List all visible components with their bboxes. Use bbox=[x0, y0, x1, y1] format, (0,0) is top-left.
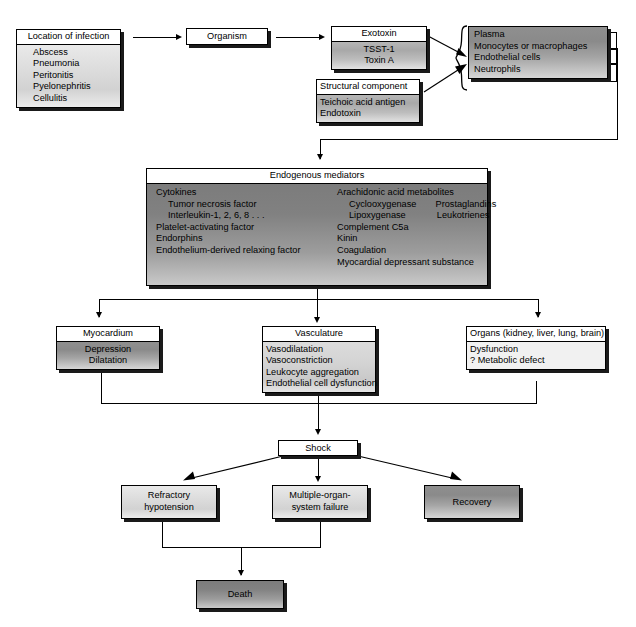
node-organs: Organs (kidney, liver, lung, brain) Dysf… bbox=[466, 326, 606, 370]
node-organism-label: Organism bbox=[207, 31, 247, 42]
connector-location-to-organism bbox=[133, 37, 178, 38]
node-mosf-line2: system failure bbox=[273, 502, 367, 514]
bracket-stub-bottom bbox=[607, 63, 617, 82]
list-item: Endotoxin bbox=[320, 108, 415, 120]
node-structural-header: Structural component bbox=[317, 80, 419, 95]
node-organs-body: Dysfunction ? Metabolic defect bbox=[467, 342, 605, 369]
mediators-left-column: Cytokines Tumor necrosis factor Interleu… bbox=[156, 187, 331, 257]
list-item: Cyclooxygenase Prostaglandins bbox=[337, 199, 487, 211]
list-item: Plasma bbox=[474, 29, 603, 41]
connector-refractory-down bbox=[162, 519, 163, 548]
node-exotoxin-header: Exotoxin bbox=[332, 27, 426, 42]
list-item: Teichoic acid antigen bbox=[320, 97, 415, 109]
list-item: Tumor necrosis factor bbox=[156, 199, 331, 211]
arrowhead-down bbox=[315, 476, 321, 482]
list-item: ? Metabolic defect bbox=[470, 355, 601, 367]
list-item: Endothelial cells bbox=[474, 52, 603, 64]
node-mediators-body: Cytokines Tumor necrosis factor Interleu… bbox=[147, 184, 487, 285]
node-vasculature-header: Vasculature bbox=[263, 327, 375, 342]
node-refractory-hypotension: Refractory hypotension bbox=[121, 485, 217, 519]
list-item-product: Leukotrienes bbox=[437, 210, 490, 220]
list-item: Interleukin-1, 2, 6, 8 . . . bbox=[156, 210, 331, 222]
list-item: Lipoxygenase Leukotrienes bbox=[337, 210, 487, 222]
node-exotoxin: Exotoxin TSST-1 Toxin A bbox=[331, 26, 427, 70]
node-shock: Shock bbox=[278, 440, 358, 456]
node-recovery: Recovery bbox=[424, 485, 520, 519]
list-item: Vasodilatation bbox=[266, 344, 371, 356]
node-mediators-header: Endogenous mediators bbox=[147, 169, 487, 184]
connector-shock-to-recovery bbox=[356, 456, 468, 484]
node-recovery-label: Recovery bbox=[453, 497, 492, 508]
list-item: TSST-1 bbox=[336, 44, 422, 56]
node-organs-header: Organs (kidney, liver, lung, brain) bbox=[467, 327, 605, 342]
arrowhead-down bbox=[238, 570, 244, 576]
list-item-enzyme: Cyclooxygenase bbox=[349, 199, 416, 209]
brace-targets bbox=[455, 25, 468, 91]
node-location-body: Abscess Pneumonia Peritonitis Pyelonephr… bbox=[17, 45, 120, 107]
list-item: Cellulitis bbox=[21, 93, 116, 105]
list-item: Complement C5a bbox=[337, 222, 487, 234]
node-cellular-targets: Plasma Monocytes or macrophages Endothel… bbox=[468, 26, 608, 79]
node-shock-label: Shock bbox=[305, 443, 331, 454]
list-item: Pyelonephritis bbox=[21, 81, 116, 93]
list-item: Endothelial cell dysfunction bbox=[266, 378, 371, 390]
list-item: Abscess bbox=[21, 47, 116, 59]
connector-mosf-down bbox=[320, 519, 321, 548]
list-item-product: Prostaglandins bbox=[436, 199, 497, 209]
list-item: Leukocyte aggregation bbox=[266, 367, 371, 379]
node-targets-body: Plasma Monocytes or macrophages Endothel… bbox=[469, 27, 607, 78]
connector-targets-left bbox=[320, 139, 618, 140]
list-item: Cytokines bbox=[156, 187, 331, 199]
node-location-header: Location of infection bbox=[17, 30, 120, 45]
node-refractory-line1: Refractory bbox=[122, 490, 216, 502]
list-item: Endorphins bbox=[156, 233, 331, 245]
node-exotoxin-body: TSST-1 Toxin A bbox=[332, 42, 426, 69]
node-death-label: Death bbox=[228, 589, 253, 600]
list-item: Platelet-activating factor bbox=[156, 222, 331, 234]
arrowhead-down bbox=[535, 312, 541, 318]
list-item-enzyme: Lipoxygenase bbox=[349, 210, 406, 220]
connector-organism-to-exotoxin bbox=[276, 37, 321, 38]
node-myocardium-body: Depression Dilatation bbox=[57, 342, 159, 369]
node-structural-component: Structural component Teichoic acid antig… bbox=[316, 79, 420, 123]
arrowhead-down bbox=[315, 429, 321, 435]
node-vasculature: Vasculature Vasodilatation Vasoconstrict… bbox=[262, 326, 376, 393]
connector-organs-down bbox=[536, 381, 537, 404]
arrowhead-down bbox=[96, 312, 102, 318]
arrowhead-right bbox=[319, 34, 325, 40]
node-structural-body: Teichoic acid antigen Endotoxin bbox=[317, 95, 419, 122]
mediators-right-column: Arachidonic acid metabolites Cyclooxygen… bbox=[337, 187, 487, 268]
node-death: Death bbox=[196, 580, 284, 609]
flowchart-canvas: Location of infection Abscess Pneumonia … bbox=[0, 0, 636, 627]
list-item: Monocytes or macrophages bbox=[474, 41, 603, 53]
list-item: Endothelium-derived relaxing factor bbox=[156, 245, 331, 257]
connector-branch-bar bbox=[99, 299, 539, 300]
list-item: Depression bbox=[61, 344, 155, 356]
node-myocardium: Myocardium Depression Dilatation bbox=[56, 326, 160, 370]
list-item: Neutrophils bbox=[474, 64, 603, 76]
list-item: Vasoconstriction bbox=[266, 355, 371, 367]
arrowhead-down bbox=[317, 154, 323, 160]
arrowhead-down bbox=[314, 317, 320, 323]
list-item: Dilatation bbox=[61, 355, 155, 367]
node-refractory-line2: hypotension bbox=[122, 502, 216, 514]
node-myocardium-header: Myocardium bbox=[57, 327, 159, 342]
list-item: Peritonitis bbox=[21, 70, 116, 82]
connector-targets-down bbox=[617, 48, 618, 140]
node-organism: Organism bbox=[186, 28, 268, 45]
list-item: Myocardial depressant substance bbox=[337, 257, 487, 269]
list-item: Coagulation bbox=[337, 245, 487, 257]
list-item: Toxin A bbox=[336, 55, 422, 67]
list-item: Pneumonia bbox=[21, 58, 116, 70]
node-mosf-line1: Multiple-organ- bbox=[273, 490, 367, 502]
connector-myocardium-down bbox=[101, 369, 102, 404]
list-item: Arachidonic acid metabolites bbox=[337, 187, 487, 199]
connector-shock-to-refractory bbox=[178, 456, 288, 484]
node-location-of-infection: Location of infection Abscess Pneumonia … bbox=[16, 29, 121, 108]
node-vasculature-body: Vasodilatation Vasoconstriction Leukocyt… bbox=[263, 342, 375, 392]
node-multiple-organ-system-failure: Multiple-organ- system failure bbox=[272, 485, 368, 519]
list-item: Dysfunction bbox=[470, 344, 601, 356]
arrowhead-right bbox=[176, 34, 182, 40]
node-endogenous-mediators: Endogenous mediators Cytokines Tumor nec… bbox=[146, 168, 488, 286]
list-item: Kinin bbox=[337, 233, 487, 245]
